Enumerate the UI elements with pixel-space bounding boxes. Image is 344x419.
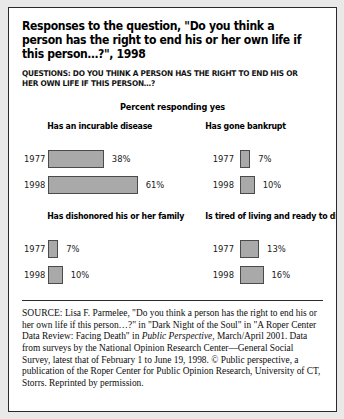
panel-title: Is tired of living and ready to die [185,211,334,221]
panel-bars: 1977 38% 1998 61% [24,146,179,198]
bar-tired-of-living-1998 [240,266,264,284]
bar-track: 61% [48,176,164,194]
bar-track: 7% [48,240,80,258]
bar-track: 7% [240,150,272,168]
bar-year-label: 1977 [24,244,48,254]
bar-value-label: 13% [267,244,286,254]
figure-frame: Responses to the question, "Do you think… [8,7,337,412]
bar-row: 1977 7% [24,236,179,262]
source-note: SOURCE: Lisa F. Parmelee, "Do you think … [22,300,323,389]
bar-incurable-disease-1977 [48,150,104,168]
bar-track: 16% [240,266,290,284]
figure-container: Responses to the question, "Do you think… [0,0,344,419]
source-publication-title: Public Perspective, [142,331,215,341]
panel-title: Has an incurable disease [27,121,176,131]
bar-track: 38% [48,150,130,168]
bar-track: 13% [240,240,286,258]
bar-row: 1977 38% [24,146,179,172]
panel-title: Has gone bankrupt [185,121,334,131]
chart-axis-label: Percent responding yes [22,102,323,112]
source-label: SOURCE: [22,307,63,318]
bar-tired-of-living-1977 [240,240,259,258]
bar-gone-bankrupt-1977 [240,150,250,168]
bar-value-label: 10% [263,180,282,190]
bar-track: 10% [240,176,281,194]
bar-incurable-disease-1998 [48,176,138,194]
bar-dishonored-family-1998 [48,266,63,284]
panel-title: Has dishonored his or her family [27,211,176,221]
bar-row: 1998 61% [24,172,179,198]
page-title: Responses to the question, "Do you think… [22,19,309,62]
bar-value-label: 7% [258,154,271,164]
chart-area: Percent responding yes Has an incurable … [22,102,323,298]
bar-value-label: 10% [71,270,90,280]
bar-year-label: 1998 [182,180,240,190]
bar-value-label: 7% [66,244,79,254]
panel-bars: 1977 7% 1998 10% [182,146,337,198]
bar-dishonored-family-1977 [48,240,58,258]
chart-panel-incurable-disease: Has an incurable disease 1977 38% 1998 [24,121,179,198]
bar-value-label: 38% [112,154,131,164]
chart-panel-tired-of-living: Is tired of living and ready to die 1977… [182,211,337,288]
bar-value-label: 16% [272,270,291,280]
bar-year-label: 1977 [182,154,240,164]
bar-value-label: 61% [146,180,165,190]
bar-row: 1977 13% [182,236,337,262]
bar-year-label: 1977 [182,244,240,254]
bar-row: 1977 7% [182,146,337,172]
chart-panel-gone-bankrupt: Has gone bankrupt 1977 7% 1998 [182,121,337,198]
bar-row: 1998 16% [182,262,337,288]
bar-year-label: 1998 [182,270,240,280]
chart-panel-dishonored-family: Has dishonored his or her family 1977 7%… [24,211,179,288]
bar-row: 1998 10% [182,172,337,198]
bar-gone-bankrupt-1998 [240,176,255,194]
panel-bars: 1977 13% 1998 16% [182,236,337,288]
bar-track: 10% [48,266,89,284]
bar-row: 1998 10% [24,262,179,288]
bar-year-label: 1998 [24,180,48,190]
bar-year-label: 1998 [24,270,48,280]
question-subtitle: QUESTIONS: DO YOU THINK A PERSON HAS THE… [22,69,302,90]
panel-bars: 1977 7% 1998 10% [24,236,179,288]
bar-year-label: 1977 [24,154,48,164]
